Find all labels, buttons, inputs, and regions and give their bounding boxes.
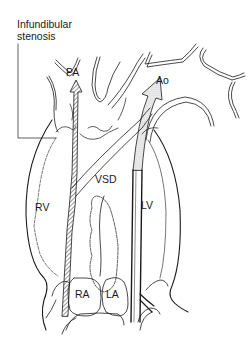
left-ventricle-outline bbox=[142, 128, 188, 312]
label-vsd: VSD bbox=[95, 174, 117, 185]
label-ao: Ao bbox=[156, 75, 169, 86]
infundibular-stenosis-callout: Infundibular stenosis bbox=[17, 18, 72, 42]
heart-diagram bbox=[0, 0, 250, 349]
label-lv: LV bbox=[141, 200, 153, 211]
callout-leader-line bbox=[18, 44, 56, 138]
label-ra: RA bbox=[75, 289, 90, 300]
label-la: LA bbox=[106, 289, 119, 300]
callout-line-2: stenosis bbox=[17, 30, 72, 42]
label-pa: PA bbox=[66, 67, 79, 78]
label-rv: RV bbox=[35, 202, 49, 213]
right-ventricle-outline bbox=[26, 120, 58, 330]
pa-flow-arrow bbox=[62, 80, 82, 316]
pulmonary-artery-outline bbox=[47, 57, 120, 132]
callout-line-1: Infundibular bbox=[17, 18, 72, 30]
main-trunk-outline bbox=[108, 54, 145, 108]
